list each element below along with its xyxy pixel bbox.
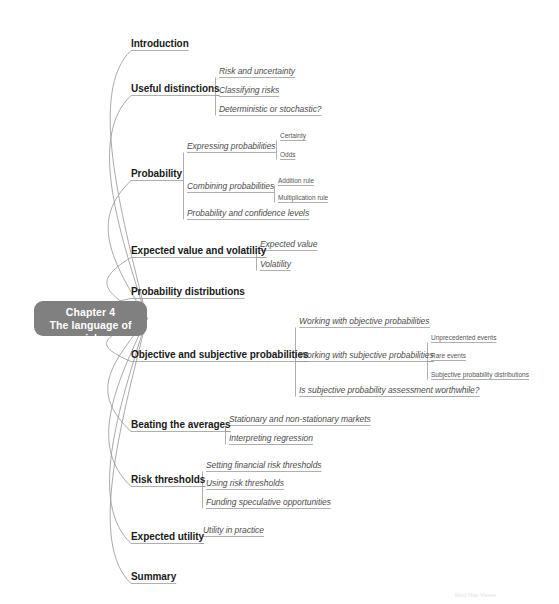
leaf-label-2-1-0[interactable]: Addition rule	[278, 177, 314, 185]
root-line-2: The language of risk	[44, 319, 137, 345]
branch-label-4[interactable]: Probability distributions	[131, 286, 245, 298]
subbranch-label-7-2[interactable]: Funding speculative opportunities	[206, 497, 331, 508]
subbranch-label-1-0[interactable]: Risk and uncertainty	[219, 66, 295, 77]
root-line-1: Chapter 4	[44, 306, 137, 319]
leaf-label-2-0-0[interactable]: Certainty	[280, 132, 306, 140]
branch-label-0[interactable]: Introduction	[131, 38, 189, 50]
branch-label-6[interactable]: Beating the averages	[131, 419, 231, 431]
subbranch-label-7-1[interactable]: Using risk thresholds	[206, 478, 284, 489]
subbranch-label-5-2[interactable]: Is subjective probability assessment wor…	[299, 385, 479, 396]
subbranch-label-7-0[interactable]: Setting financial risk thresholds	[206, 460, 322, 471]
root-node[interactable]: Chapter 4The language of risk	[34, 301, 147, 336]
subbranch-label-6-0[interactable]: Stationary and non-stationary markets	[229, 414, 371, 425]
watermark-text: Mind Map Viewer	[455, 592, 497, 598]
subbranch-label-3-0[interactable]: Expected value	[260, 239, 317, 250]
branch-label-9[interactable]: Summary	[131, 571, 176, 583]
branch-label-5[interactable]: Objective and subjective probabilities	[131, 349, 309, 361]
subbranch-label-8-0[interactable]: Utility in practice	[203, 525, 264, 536]
branch-label-1[interactable]: Useful distinctions	[131, 83, 220, 95]
branch-label-2[interactable]: Probability	[131, 168, 182, 180]
subbranch-label-5-0[interactable]: Working with objective probabilities	[299, 316, 429, 327]
branch-label-8[interactable]: Expected utility	[131, 531, 204, 543]
subbranch-label-2-1[interactable]: Combining probabilities	[187, 181, 274, 192]
subbranch-label-6-1[interactable]: Interpreting regression	[229, 433, 313, 444]
subbranch-label-1-2[interactable]: Deterministic or stochastic?	[219, 104, 322, 115]
leaf-label-5-1-1[interactable]: Rare events	[431, 352, 466, 360]
subbranch-label-1-1[interactable]: Classifying risks	[219, 85, 279, 96]
mindmap-canvas: Chapter 4The language of riskIntroductio…	[0, 0, 559, 604]
subbranch-label-2-2[interactable]: Probability and confidence levels	[187, 208, 309, 219]
leaf-label-2-0-1[interactable]: Odds	[280, 151, 296, 159]
leaf-label-5-1-2[interactable]: Subjective probability distributions	[431, 371, 529, 379]
leaf-label-2-1-1[interactable]: Multiplication rule	[278, 194, 328, 202]
branch-label-7[interactable]: Risk thresholds	[131, 474, 205, 486]
subbranch-label-2-0[interactable]: Expressing probabilities	[187, 141, 276, 152]
subbranch-label-5-1[interactable]: Working with subjective probabilities	[299, 350, 434, 361]
subbranch-label-3-1[interactable]: Volatility	[260, 259, 291, 270]
leaf-label-5-1-0[interactable]: Unprecedented events	[431, 334, 496, 342]
branch-label-3[interactable]: Expected value and volatility	[131, 245, 266, 257]
